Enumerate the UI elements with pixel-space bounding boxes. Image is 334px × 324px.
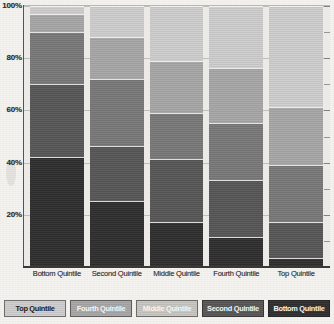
bar-segment bbox=[269, 6, 323, 107]
legend-item[interactable]: Second Quintile bbox=[202, 300, 264, 317]
bar-segment bbox=[30, 14, 84, 32]
stacked-bar-chart: 20%40%60%80%100% Bottom QuintileSecond Q… bbox=[0, 0, 334, 288]
bar-segment bbox=[209, 6, 263, 68]
legend-item-label: Second Quintile bbox=[207, 304, 259, 313]
bar-segment bbox=[90, 79, 144, 147]
bar-segment bbox=[90, 6, 144, 37]
legend-item-label: Fourth Quintile bbox=[77, 304, 125, 313]
y-axis-label: 20% bbox=[0, 209, 22, 218]
x-axis-label: Fourth Quintile bbox=[209, 269, 263, 278]
bar-group bbox=[23, 6, 330, 266]
bar-segment bbox=[30, 157, 84, 266]
bar-segment bbox=[30, 6, 84, 14]
bar-column bbox=[209, 6, 263, 266]
bar-segment bbox=[269, 165, 323, 222]
x-axis-tick-labels: Bottom QuintileSecond QuintileMiddle Qui… bbox=[23, 269, 330, 278]
bar-segment bbox=[30, 32, 84, 84]
y-axis-label: 40% bbox=[0, 157, 22, 166]
bar-segment bbox=[30, 84, 84, 157]
x-axis-line bbox=[23, 266, 330, 268]
y-axis-label: 80% bbox=[0, 53, 22, 62]
x-axis-label: Top Quintile bbox=[269, 269, 323, 278]
bar-column bbox=[269, 6, 323, 266]
bar-segment bbox=[150, 222, 204, 266]
plot-area bbox=[23, 5, 330, 266]
bar-segment bbox=[90, 146, 144, 201]
legend-item[interactable]: Top Quintile bbox=[4, 300, 66, 317]
bar-segment bbox=[150, 113, 204, 160]
legend-item[interactable]: Bottom Quintile bbox=[268, 300, 330, 317]
legend-item[interactable]: Middle Quintile bbox=[136, 300, 198, 317]
bar-segment bbox=[90, 201, 144, 266]
legend-item-label: Middle Quintile bbox=[143, 304, 191, 313]
x-axis-label: Middle Quintile bbox=[150, 269, 204, 278]
bar-segment bbox=[269, 258, 323, 266]
legend-item[interactable]: Fourth Quintile bbox=[70, 300, 132, 317]
bar-segment bbox=[209, 180, 263, 237]
bar-segment bbox=[209, 68, 263, 123]
legend-item-label: Bottom Quintile bbox=[274, 304, 325, 313]
y-axis-line bbox=[23, 5, 24, 266]
x-axis-label: Bottom Quintile bbox=[30, 269, 84, 278]
chart-legend: Top QuintileFourth QuintileMiddle Quinti… bbox=[4, 300, 330, 317]
bar-segment bbox=[150, 61, 204, 113]
legend-item-label: Top Quintile bbox=[16, 304, 55, 313]
bar-segment bbox=[269, 222, 323, 258]
x-axis-label: Second Quintile bbox=[90, 269, 144, 278]
bar-segment bbox=[209, 123, 263, 180]
bar-column bbox=[30, 6, 84, 266]
bar-segment bbox=[209, 237, 263, 266]
y-axis-label: 60% bbox=[0, 105, 22, 114]
bar-segment bbox=[150, 6, 204, 61]
bar-segment bbox=[150, 159, 204, 221]
y-axis-label: 100% bbox=[0, 1, 22, 10]
bar-segment bbox=[269, 107, 323, 164]
bar-column bbox=[90, 6, 144, 266]
bar-segment bbox=[90, 37, 144, 79]
bar-column bbox=[150, 6, 204, 266]
